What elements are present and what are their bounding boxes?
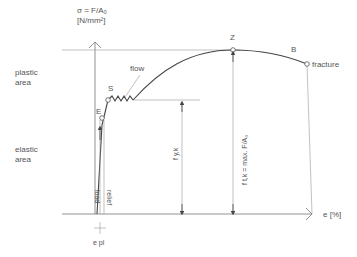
point-E-label: E xyxy=(96,107,101,116)
flow-label: flow xyxy=(130,64,144,73)
relief-label: relief xyxy=(106,190,113,205)
point-B-marker xyxy=(305,62,310,67)
fracture-label: fracture xyxy=(312,60,340,69)
ftk-label: f t,k = max. F/A₀ xyxy=(241,135,248,185)
y-axis-label-unit: [N/mm²] xyxy=(77,16,105,25)
x-axis xyxy=(62,208,312,220)
point-E-marker xyxy=(100,116,105,121)
load-label: load xyxy=(94,190,101,203)
elastic-area-label-1: elastic xyxy=(15,145,38,154)
epl-label: e pl xyxy=(93,239,105,247)
y-axis-label-formula: σ = F/A₀ xyxy=(77,6,107,15)
fyk-label: f y,k xyxy=(172,147,180,160)
point-S-label: S xyxy=(108,84,113,93)
elastic-area-label-2: area xyxy=(15,155,32,164)
x-axis-label: e [%] xyxy=(323,210,341,219)
epl-marker xyxy=(94,222,106,234)
stress-strain-diagram: σ = F/A₀ [N/mm²] e [%] plastic area elas… xyxy=(0,0,357,257)
flow-leader-line xyxy=(125,75,140,97)
point-B-label: B xyxy=(291,45,296,54)
y-axis xyxy=(89,42,101,214)
point-S-marker xyxy=(106,98,111,103)
plastic-area-label-2: area xyxy=(15,78,32,87)
point-Z-label: Z xyxy=(230,33,235,42)
point-Z-marker xyxy=(231,48,236,53)
plastic-area-label-1: plastic xyxy=(15,68,38,77)
stress-strain-curve xyxy=(97,50,312,214)
